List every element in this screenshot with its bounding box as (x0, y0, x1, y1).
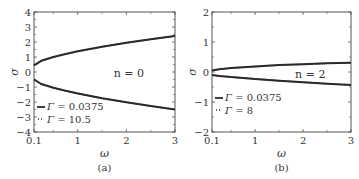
y-axis: −4−3−2−101234 (16, 7, 175, 138)
y-tick-label: −3 (16, 112, 31, 123)
legend: Γ = 0.0375Γ = 10.5 (37, 101, 104, 125)
x-tick-label: 2 (300, 135, 306, 146)
data-series (34, 36, 175, 110)
y-axis-label: σ (8, 68, 21, 76)
x-tick-label: 3 (172, 135, 178, 146)
y-axis: −2−1012 (194, 7, 351, 138)
y-tick-label: −1 (16, 82, 31, 93)
y-tick-label: −2 (16, 97, 31, 108)
series-line-dotted (212, 63, 351, 71)
legend-label: Γ = 0.0375 (46, 101, 104, 112)
chart-panel-a: 0.1123−4−3−2−101234ωσ(a)n = 0Γ = 0.0375Γ… (8, 7, 178, 174)
y-tick-label: 1 (25, 52, 31, 63)
x-tick-label: 2 (123, 135, 129, 146)
y-tick-label: 0 (203, 67, 209, 78)
y-tick-label: 3 (25, 22, 31, 33)
y-tick-label: −1 (194, 97, 209, 108)
series-line-dotted (34, 36, 175, 65)
x-axis-label: ω (277, 147, 286, 160)
chart-panel-b: 0.1123−2−1012ωσ(b)n = 2Γ = 0.0375Γ = 8 (186, 7, 354, 174)
mode-annotation: n = 0 (114, 67, 144, 80)
x-axis-label: ω (100, 147, 109, 160)
y-tick-label: −4 (16, 127, 31, 138)
y-tick-label: 0 (25, 67, 31, 78)
y-tick-label: −2 (194, 127, 209, 138)
panel-caption: (a) (98, 162, 112, 173)
y-axis-label: σ (186, 68, 199, 76)
data-series (212, 63, 351, 85)
y-tick-label: 4 (25, 7, 31, 18)
x-axis: 0.1123 (204, 12, 354, 146)
x-tick-label: 3 (348, 135, 354, 146)
y-tick-label: 2 (25, 37, 31, 48)
legend-label: Γ = 0.0375 (224, 92, 282, 103)
x-tick-label: 1 (75, 135, 81, 146)
y-tick-label: 1 (203, 37, 209, 48)
legend-label: Γ = 8 (224, 105, 253, 116)
x-axis: 0.1123 (26, 12, 178, 146)
series-line-solid (34, 36, 175, 65)
legend-label: Γ = 10.5 (46, 114, 91, 125)
mode-annotation: n = 2 (295, 68, 325, 81)
panel-caption: (b) (274, 162, 288, 173)
y-tick-label: 2 (203, 7, 209, 18)
x-tick-label: 1 (252, 135, 258, 146)
legend: Γ = 0.0375Γ = 8 (215, 92, 282, 116)
figure: 0.1123−4−3−2−101234ωσ(a)n = 0Γ = 0.0375Γ… (0, 0, 359, 179)
